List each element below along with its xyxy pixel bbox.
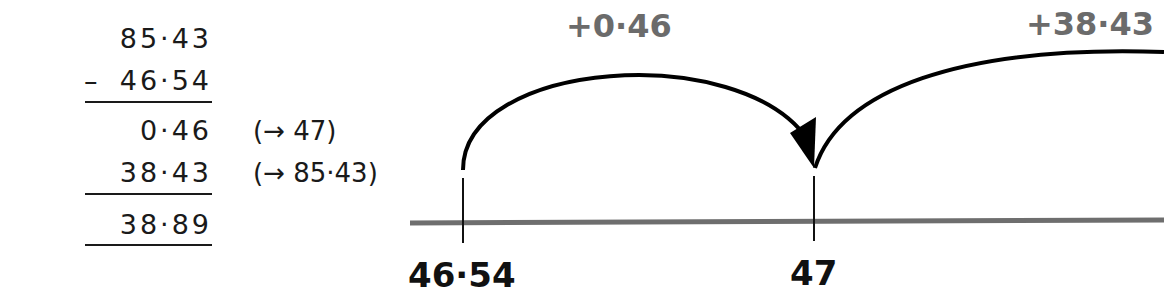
- jump-arc-1: [463, 75, 808, 170]
- point-label-47: 47: [790, 254, 837, 292]
- jump-label-2: +38·43: [1026, 6, 1154, 42]
- number-line: [410, 220, 1164, 223]
- number-line-diagram: +0·46 +38·43 46·54 47: [0, 0, 1164, 296]
- point-label-46-54: 46·54: [408, 256, 516, 294]
- jump-label-1: +0·46: [566, 8, 672, 44]
- jump-arc-2: [815, 51, 1164, 168]
